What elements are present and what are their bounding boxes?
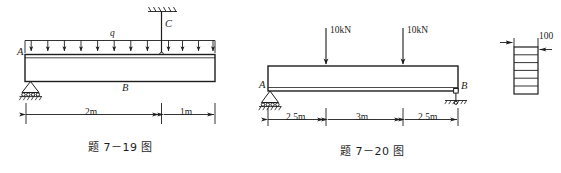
dim-label-1m: 1m xyxy=(180,108,192,118)
pin-support-a-7-20 xyxy=(259,91,282,110)
section-extension-lines xyxy=(514,38,538,47)
point-label-a-7-19: A xyxy=(17,47,23,58)
point-label-b-7-19: B xyxy=(122,83,128,94)
cross-section-graphics xyxy=(500,38,552,94)
figure-sheet: A B C q 2m 1m 题 7－19 图 A B 10kN 10kN 2.5… xyxy=(0,0,561,173)
roller-support-a-7-19 xyxy=(19,82,42,101)
beam-body-7-19 xyxy=(25,55,215,82)
point-label-a-7-20: A xyxy=(259,80,265,91)
point-load-label-right: 10kN xyxy=(407,26,428,36)
dim-label-100: 100 xyxy=(539,32,553,42)
dim-label-2_5m-left: 2.5m xyxy=(286,113,305,123)
fixed-ceiling-hatch-c xyxy=(148,7,177,12)
caption-7-20: 题 7－20 图 xyxy=(340,146,405,157)
point-label-b-7-20: B xyxy=(461,81,467,92)
dim-label-2m: 2m xyxy=(85,108,97,118)
diagram-canvas xyxy=(0,0,561,173)
point-label-c-7-19: C xyxy=(165,19,172,30)
point-load-label-left: 10kN xyxy=(330,26,351,36)
distributed-load-arrows xyxy=(31,41,213,52)
dim-label-3m: 3m xyxy=(356,113,368,123)
caption-7-19: 题 7－19 图 xyxy=(88,142,153,153)
load-label-q: q xyxy=(110,29,115,39)
dim-label-2_5m-right: 2.5m xyxy=(418,113,437,123)
